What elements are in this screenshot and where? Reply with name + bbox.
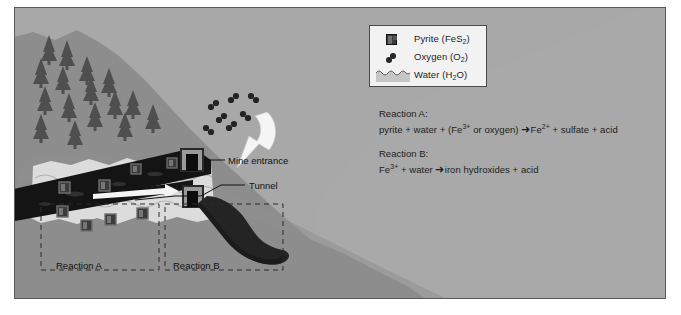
- reactions-text-block: Reaction A: pyrite + water + (Fe3+ or ox…: [379, 108, 659, 176]
- legend-item-pyrite: Pyrite (FeS2): [376, 30, 480, 48]
- reaction-b-equation: Fe3+ + water➜iron hydroxides + acid: [379, 163, 659, 176]
- reaction-a-products-pre: Fe: [531, 124, 542, 135]
- diagram-scene: Pyrite (FeS2) Oxygen (O2): [15, 8, 665, 298]
- reaction-a-arrow-icon: ➜: [519, 123, 531, 135]
- legend-tail-water: O): [456, 69, 467, 80]
- pyrite-cube-icon: [376, 32, 410, 47]
- legend-item-oxygen: Oxygen (O2): [376, 48, 480, 66]
- pyrite-cube: [105, 214, 116, 225]
- legend-box: Pyrite (FeS2) Oxygen (O2): [369, 25, 487, 87]
- reaction-a-equation: pyrite + water + (Fe3+ or oxygen)➜Fe2+ +…: [379, 123, 659, 136]
- pyrite-cube: [59, 182, 70, 193]
- reaction-b-heading: Reaction B:: [379, 148, 659, 159]
- pyrite-cube: [167, 158, 177, 168]
- legend-label-oxygen: Oxygen (O: [414, 51, 461, 62]
- label-reaction-b: Reaction B: [173, 260, 219, 271]
- reaction-b-products: iron hydroxides + acid: [445, 164, 539, 175]
- reaction-a-products-rest: + sulfate + acid: [550, 124, 618, 135]
- legend-label-water: Water (H: [414, 69, 452, 80]
- upper-mine-portal: [181, 149, 203, 171]
- reaction-a-heading: Reaction A:: [379, 108, 659, 119]
- legend-tail-pyrite: ): [467, 33, 470, 44]
- reaction-a-reactants-rest: or oxygen): [470, 124, 518, 135]
- legend-label-pyrite: Pyrite (FeS: [414, 33, 463, 44]
- legend-tail-oxygen: ): [465, 51, 468, 62]
- legend-item-water: Water (H2O): [376, 66, 480, 84]
- reaction-b-reactants-rest: + water: [398, 164, 432, 175]
- pyrite-cube: [131, 164, 141, 174]
- water-band-icon: [376, 68, 410, 83]
- pyrite-cube: [99, 180, 110, 191]
- reaction-b-reactants-pre: Fe: [379, 164, 390, 175]
- pyrite-cube: [81, 220, 92, 231]
- reaction-a-reactants: pyrite + water + (Fe: [379, 124, 462, 135]
- label-reaction-a: Reaction A: [56, 260, 102, 271]
- oxygen-molecule-icon: [376, 50, 410, 65]
- pyrite-cube: [137, 208, 148, 219]
- reaction-b-arrow-icon: ➜: [433, 163, 445, 175]
- pyrite-cube: [57, 206, 68, 217]
- label-tunnel: Tunnel: [249, 180, 278, 191]
- label-mine-entrance: Mine entrance: [228, 155, 288, 166]
- figure-panel: Pyrite (FeS2) Oxygen (O2): [14, 7, 666, 299]
- reaction-a-fe2-charge: 2+: [542, 123, 550, 130]
